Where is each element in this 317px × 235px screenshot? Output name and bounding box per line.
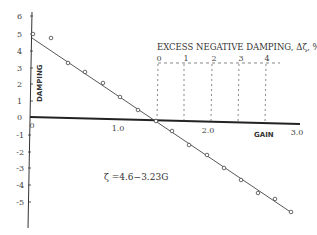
fit-line: [32, 38, 292, 213]
x-axis-label: GAIN: [254, 131, 274, 139]
svg-text:1.0: 1.0: [112, 124, 125, 133]
svg-text:4: 4: [264, 54, 269, 63]
svg-text:1: 1: [183, 54, 188, 63]
svg-text:6: 6: [17, 12, 22, 21]
y-axis: [28, 12, 32, 228]
svg-text:2: 2: [17, 80, 22, 89]
excess-damping-label: EXCESS NEGATIVE DAMPING, Δζ, %: [157, 42, 317, 52]
svg-text:0: 0: [17, 113, 22, 122]
svg-text:-3: -3: [16, 164, 24, 173]
svg-text:1: 1: [17, 97, 22, 106]
svg-text:3.0: 3.0: [291, 128, 304, 137]
svg-text:2.0: 2.0: [202, 126, 215, 135]
svg-text:3: 3: [17, 64, 22, 73]
secondary-ticks: 0 1 2 3 4: [156, 54, 269, 63]
damping-vs-gain-chart: 6 5 4 3 2 1 0 -1 -2 -3 -4 -5 0 1.0 2.0 3…: [0, 0, 317, 235]
svg-text:3: 3: [238, 54, 243, 63]
svg-text:2: 2: [211, 54, 216, 63]
svg-text:-4: -4: [16, 181, 24, 190]
fit-equation: ζ =4.6−3.23G: [104, 172, 168, 182]
y-axis-label: DAMPING: [36, 64, 44, 102]
svg-text:0: 0: [156, 54, 161, 63]
x-axis: [30, 117, 300, 124]
svg-text:-1: -1: [16, 131, 24, 140]
svg-text:0: 0: [29, 121, 34, 130]
svg-text:5: 5: [17, 30, 22, 39]
y-tick-labels: 6 5 4 3 2 1 0 -1 -2 -3 -4 -5: [16, 12, 24, 207]
svg-text:4: 4: [17, 47, 22, 56]
svg-text:-5: -5: [16, 198, 24, 207]
secondary-drop-lines: [157, 64, 266, 123]
svg-text:-2: -2: [16, 148, 24, 157]
